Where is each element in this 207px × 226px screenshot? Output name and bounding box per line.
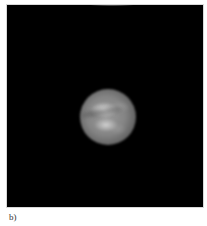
edge-glint <box>87 5 137 6</box>
image-panel <box>7 5 203 207</box>
planet-image <box>80 89 136 145</box>
panel-label: b) <box>9 212 17 222</box>
